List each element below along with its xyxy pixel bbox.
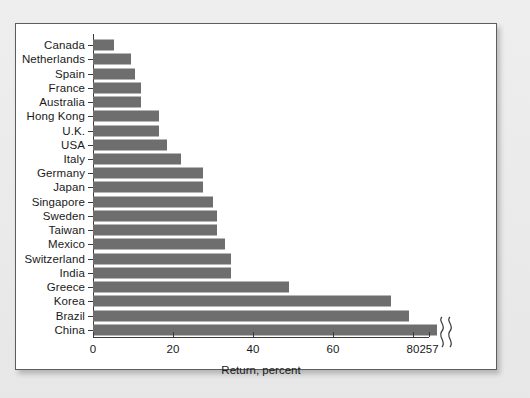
bar (93, 310, 409, 321)
bar-row: France (16, 81, 498, 95)
bar (93, 196, 213, 207)
bar (93, 267, 231, 278)
bar (93, 253, 231, 264)
category-label: USA (61, 139, 85, 151)
x-tick (413, 332, 414, 337)
bar-row: Switzerland (16, 252, 498, 266)
category-label: Mexico (48, 238, 85, 250)
bar-row: Spain (16, 66, 498, 80)
category-label: Brazil (56, 310, 85, 322)
x-tick (429, 332, 430, 337)
bar (93, 182, 203, 193)
category-label: Sweden (43, 210, 85, 222)
bar (93, 225, 217, 236)
bar-row: Mexico (16, 237, 498, 251)
category-label: Switzerland (24, 253, 85, 265)
x-tick-label: 257 (419, 343, 438, 355)
category-label: Taiwan (49, 224, 85, 236)
bar (93, 82, 141, 93)
category-label: China (54, 324, 85, 336)
bar-row: Greece (16, 280, 498, 294)
bar (93, 97, 141, 108)
bar (93, 40, 114, 51)
category-label: U.K. (62, 125, 85, 137)
bar (93, 210, 217, 221)
category-label: France (49, 82, 85, 94)
category-label: Japan (53, 181, 85, 193)
x-axis-line (93, 337, 429, 338)
x-tick (333, 332, 334, 337)
x-tick (93, 332, 94, 337)
bar (93, 54, 131, 65)
category-label: Australia (39, 96, 85, 108)
bar-row: Netherlands (16, 52, 498, 66)
plot-area: CanadaNetherlandsSpainFranceAustraliaHon… (16, 24, 496, 369)
bar (93, 168, 203, 179)
bar-row: India (16, 266, 498, 280)
chart-panel: CanadaNetherlandsSpainFranceAustraliaHon… (15, 23, 497, 370)
category-label: Hong Kong (27, 110, 85, 122)
category-label: Germany (37, 167, 85, 179)
bar-row: Canada (16, 38, 498, 52)
category-label: Spain (55, 68, 85, 80)
bar-row: Sweden (16, 209, 498, 223)
x-tick-label: 20 (167, 343, 180, 355)
category-label: Korea (54, 295, 85, 307)
category-label: Greece (47, 281, 85, 293)
x-tick (173, 332, 174, 337)
category-label: Canada (44, 39, 85, 51)
bar (93, 111, 159, 122)
x-tick (253, 332, 254, 337)
x-tick-label: 80 (407, 343, 420, 355)
bar-row: China (16, 323, 498, 337)
bar-row: Singapore (16, 195, 498, 209)
bar-row: USA (16, 138, 498, 152)
category-label: Italy (63, 153, 85, 165)
bar (93, 125, 159, 136)
category-label: Singapore (32, 196, 85, 208)
bar-row: Germany (16, 166, 498, 180)
bar-row: Hong Kong (16, 109, 498, 123)
x-tick-label: 0 (90, 343, 96, 355)
bar (93, 296, 391, 307)
bar-row: Japan (16, 180, 498, 194)
bar (93, 239, 225, 250)
bar (93, 282, 289, 293)
x-tick-label: 60 (327, 343, 340, 355)
bar-row: Korea (16, 294, 498, 308)
category-label: India (60, 267, 85, 279)
bar (93, 68, 135, 79)
x-axis-title: Return, percent (16, 364, 506, 376)
category-label: Netherlands (22, 53, 85, 65)
bar-row: Taiwan (16, 223, 498, 237)
bar-row: U.K. (16, 123, 498, 137)
bar (93, 324, 437, 335)
bar-row: Italy (16, 152, 498, 166)
x-tick-label: 40 (247, 343, 260, 355)
bar-row: Brazil (16, 309, 498, 323)
bar (93, 154, 181, 165)
bar-row: Australia (16, 95, 498, 109)
bar (93, 139, 167, 150)
